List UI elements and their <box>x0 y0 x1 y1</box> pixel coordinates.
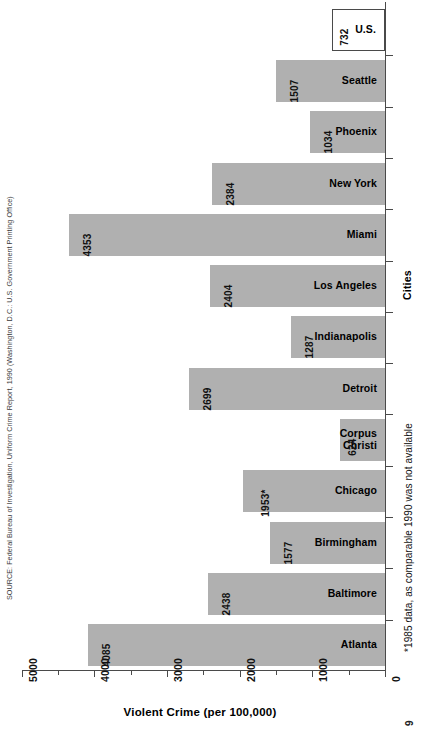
value-axis-minor-tick <box>203 670 204 675</box>
value-axis-tick-label: 5000 <box>27 658 39 682</box>
value-axis-tick <box>94 670 95 677</box>
bar-value-label: 2438 <box>221 593 232 616</box>
bar-category-label: Phoenix <box>335 126 385 138</box>
value-axis-tick-label: 4000 <box>99 658 111 682</box>
value-axis-title: Violent Crime (per 100,000) <box>0 706 400 718</box>
bar-category-label: Los Angeles <box>314 280 385 292</box>
bar-value-label: 1287 <box>304 336 315 359</box>
category-axis-tick <box>386 414 393 415</box>
category-axis-tick <box>386 158 393 159</box>
bar-value-label: 2384 <box>225 183 236 206</box>
bar-value-label: 1953* <box>260 490 271 517</box>
page-number: 9 <box>404 720 415 726</box>
bar-category-label: Indianapolis <box>315 331 385 343</box>
bar-value-label: 2699 <box>202 388 213 411</box>
source-note: SOURCE: Federal Bureau of Investigation,… <box>5 196 14 600</box>
value-axis-tick-label: 2000 <box>245 658 257 682</box>
value-axis-tick-label: 1000 <box>317 658 329 682</box>
bar-value-label: 1034 <box>323 131 334 154</box>
bar-category-label: Miami <box>347 229 385 241</box>
bar-baltimore: Baltimore <box>208 573 385 615</box>
value-axis-tick-label: 0 <box>390 676 402 682</box>
bar-category-label: Atlanta <box>341 639 385 651</box>
bar-category-label: Chicago <box>335 485 385 497</box>
category-axis-tick <box>386 363 393 364</box>
bar-value-label: 2404 <box>223 285 234 308</box>
bar-phoenix: Phoenix <box>310 111 385 153</box>
bar-category-label: Birmingham <box>315 537 385 549</box>
category-axis-tick <box>386 517 393 518</box>
bar-new-york: New York <box>212 163 385 205</box>
category-axis-tick <box>386 261 393 262</box>
bar-category-label: New York <box>329 178 385 190</box>
bar-value-label: 624 <box>347 439 358 456</box>
bar-value-label: 1507 <box>289 80 300 103</box>
bar-los-angeles: Los Angeles <box>210 265 385 307</box>
category-axis-tick <box>386 107 393 108</box>
bar-category-label: U.S. <box>355 24 384 36</box>
value-axis-tick-label: 3000 <box>172 658 184 682</box>
category-axis-tick <box>386 620 393 621</box>
footnote-text: *1985 data, as comparable 1990 was not a… <box>403 423 414 652</box>
value-axis-tick <box>240 670 241 677</box>
bar-value-label: 4353 <box>82 234 93 257</box>
violent-crime-bar-chart: U.S.732Seattle1507Phoenix1034New York238… <box>0 0 421 734</box>
bar-category-label: Seattle <box>342 75 385 87</box>
category-axis-tick <box>386 466 393 467</box>
value-axis-minor-tick <box>276 670 277 675</box>
category-axis-tick <box>386 209 393 210</box>
bar-detroit: Detroit <box>189 368 385 410</box>
category-axis-tick <box>386 568 393 569</box>
value-axis-tick <box>22 670 23 677</box>
value-axis-line <box>22 670 386 671</box>
category-axis-line <box>385 2 386 670</box>
value-axis-minor-tick <box>131 670 132 675</box>
value-axis-minor-tick <box>349 670 350 675</box>
bar-value-label: 732 <box>339 29 350 46</box>
category-axis-tick <box>386 312 393 313</box>
category-axis-title: Cities <box>401 270 413 300</box>
value-axis-tick <box>312 670 313 677</box>
category-axis-tick <box>386 55 393 56</box>
bar-miami: Miami <box>69 214 385 256</box>
value-axis-tick <box>167 670 168 677</box>
bar-category-label: Detroit <box>342 383 385 395</box>
bar-value-label: 1577 <box>283 542 294 565</box>
bar-category-label: Baltimore <box>328 588 385 600</box>
value-axis-tick <box>385 670 386 677</box>
bar-atlanta: Atlanta <box>88 624 385 666</box>
value-axis-minor-tick <box>58 670 59 675</box>
